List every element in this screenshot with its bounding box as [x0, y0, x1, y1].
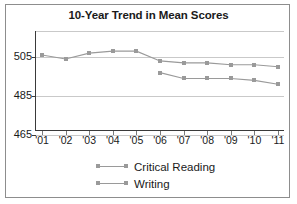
plot-area [36, 31, 284, 130]
x-tick-mark [136, 131, 137, 135]
y-axis-line [35, 31, 36, 131]
data-point-marker [252, 78, 256, 82]
data-point-marker [276, 65, 280, 69]
x-tick-label: '04 [100, 134, 126, 146]
gridline [36, 57, 284, 58]
x-tick-mark [89, 131, 90, 135]
data-point-marker [182, 61, 186, 65]
data-point-marker [134, 49, 138, 53]
data-point-marker [205, 61, 209, 65]
y-tick-mark [32, 96, 36, 97]
y-tick-label: 505 [2, 50, 32, 62]
legend-item-critical-reading[interactable]: Critical Reading [96, 158, 266, 175]
plot-top-border [36, 31, 284, 32]
x-tick-mark [42, 131, 43, 135]
data-point-marker [158, 71, 162, 75]
y-tick-mark [32, 57, 36, 58]
y-tick-label: 485 [2, 89, 32, 101]
x-tick-label: '09 [218, 134, 244, 146]
x-tick-mark [184, 131, 185, 135]
x-tick-label: '11 [265, 134, 291, 146]
x-tick-label: '05 [123, 134, 149, 146]
data-point-marker [158, 59, 162, 63]
data-point-marker [111, 49, 115, 53]
y-tick-label: 465 [2, 128, 32, 140]
x-tick-label: '08 [194, 134, 220, 146]
chart-title: 10-Year Trend in Mean Scores [0, 9, 297, 21]
chart-legend: Critical Reading Writing [96, 158, 266, 192]
legend-label: Writing [128, 178, 170, 190]
y-tick-mark [32, 135, 36, 136]
data-point-marker [229, 63, 233, 67]
x-tick-label: '10 [241, 134, 267, 146]
data-point-marker [205, 76, 209, 80]
x-tick-mark [66, 131, 67, 135]
chart-figure: 10-Year Trend in Mean Scores 465485505 '… [0, 0, 297, 204]
data-point-marker [64, 57, 68, 61]
data-point-marker [252, 63, 256, 67]
legend-label: Critical Reading [128, 161, 215, 173]
x-tick-mark [254, 131, 255, 135]
x-tick-mark [278, 131, 279, 135]
x-tick-label: '02 [53, 134, 79, 146]
legend-marker-icon [96, 180, 128, 188]
data-point-marker [276, 82, 280, 86]
legend-item-writing[interactable]: Writing [96, 175, 266, 192]
data-point-marker [182, 76, 186, 80]
x-tick-mark [231, 131, 232, 135]
x-tick-mark [207, 131, 208, 135]
x-tick-mark [160, 131, 161, 135]
x-tick-mark [113, 131, 114, 135]
x-tick-label: '03 [76, 134, 102, 146]
legend-marker-icon [96, 163, 128, 171]
x-tick-label: '06 [147, 134, 173, 146]
data-point-marker [87, 51, 91, 55]
y-axis-tick-labels: 465485505 [0, 0, 32, 204]
x-tick-label: '07 [171, 134, 197, 146]
data-point-marker [40, 53, 44, 57]
data-point-marker [229, 76, 233, 80]
gridline [36, 96, 284, 97]
